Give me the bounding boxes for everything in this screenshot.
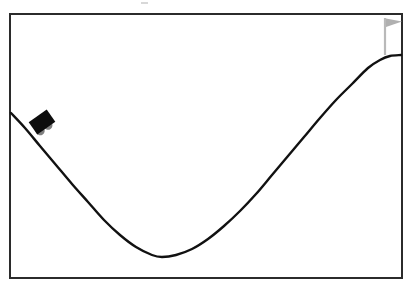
top-edge-artifact bbox=[141, 2, 148, 4]
environment-frame bbox=[9, 13, 403, 279]
mountain-car-environment bbox=[0, 0, 418, 292]
